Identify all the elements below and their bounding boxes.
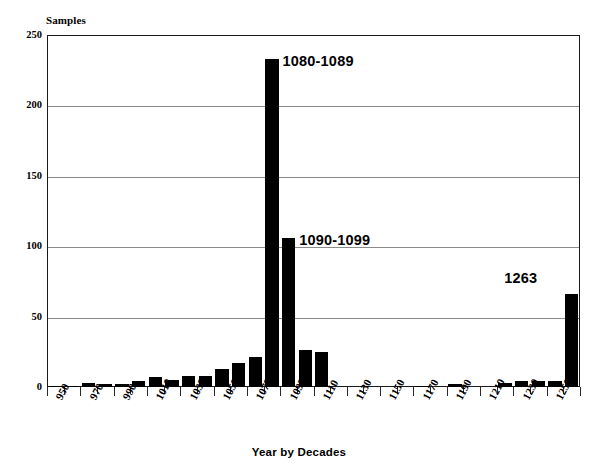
x-tick-12: [247, 387, 248, 396]
histogram-figure: Samples 050100150200250 1080-10891090-10…: [0, 0, 598, 476]
x-tick-26: [480, 387, 481, 396]
bars-layer: [47, 35, 580, 387]
x-tick-10: [214, 387, 215, 396]
x-tick-22: [413, 387, 414, 396]
bar-1090[interactable]: [282, 238, 295, 387]
x-tick-18: [347, 387, 348, 396]
bar-1080[interactable]: [265, 59, 278, 387]
y-tick-label-50: 50: [2, 312, 42, 322]
x-axis-title: Year by Decades: [0, 446, 598, 458]
data-annotation-1263: 1263: [504, 270, 537, 286]
x-tick-2: [80, 387, 81, 396]
bar-1260[interactable]: [565, 294, 578, 387]
x-tick-20: [380, 387, 381, 396]
x-tick-24: [447, 387, 448, 396]
y-tick-label-100: 100: [2, 241, 42, 251]
x-tick-0: [47, 387, 48, 396]
data-annotation-1080-1089: 1080-1089: [283, 53, 354, 69]
x-tick-4: [114, 387, 115, 396]
data-annotation-1090-1099: 1090-1099: [299, 232, 370, 248]
y-tick-label-0: 0: [2, 382, 42, 392]
x-tick-28: [513, 387, 514, 396]
x-tick-32: [580, 387, 581, 396]
x-tick-16: [314, 387, 315, 396]
y-axis-tick-labels: 050100150200250: [0, 0, 42, 476]
y-axis-title: Samples: [46, 14, 86, 26]
x-tick-8: [180, 387, 181, 396]
x-tick-14: [280, 387, 281, 396]
y-tick-label-200: 200: [2, 100, 42, 110]
x-axis-tick-labels: 9509709901010103010501070109011101130115…: [47, 396, 580, 442]
x-tick-30: [547, 387, 548, 396]
x-tick-6: [147, 387, 148, 396]
y-tick-label-150: 150: [2, 171, 42, 181]
y-tick-label-250: 250: [2, 30, 42, 40]
